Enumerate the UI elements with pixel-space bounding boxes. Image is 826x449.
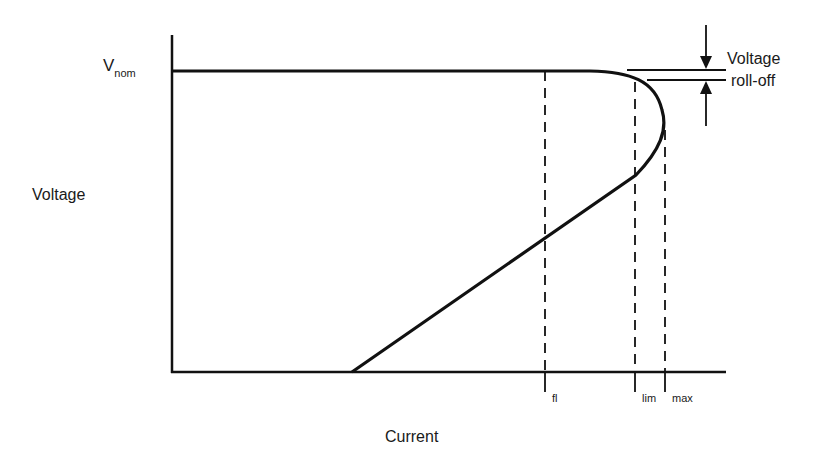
ilim-sub: lim: [642, 392, 656, 404]
vnom-sub: nom: [114, 67, 135, 79]
vnom-main: V: [103, 56, 114, 75]
rolloff-label-line1: Voltage: [727, 50, 780, 68]
imax-sub: max: [672, 392, 693, 404]
imax-label: max: [672, 383, 693, 399]
y-axis-label: Voltage: [32, 186, 85, 204]
vi-curve: [172, 71, 664, 372]
rolloff-arrow-down-icon: [700, 56, 712, 69]
x-axis-label: Current: [385, 428, 438, 446]
ifl-sub: fl: [552, 392, 558, 404]
rolloff-label-line2: roll-off: [731, 72, 775, 90]
ilim-label: lim: [642, 383, 656, 399]
rolloff-arrow-up-icon: [700, 81, 712, 94]
vnom-label: Vnom: [103, 56, 136, 76]
ifl-label: fl: [552, 383, 558, 399]
